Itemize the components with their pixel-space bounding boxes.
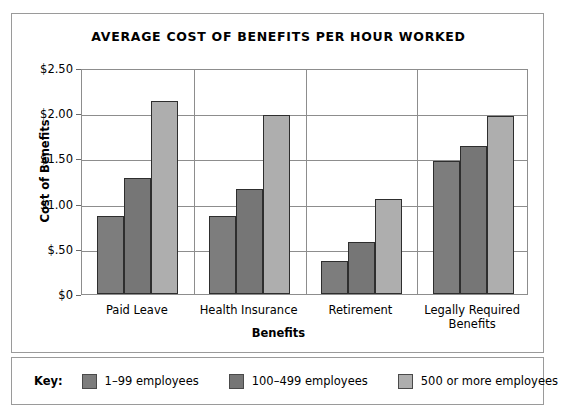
x-axis-category-label: Paid Leave [81,303,193,317]
bar [263,115,290,294]
bar [375,199,402,294]
legend-row: Key: 1–99 employees100–499 employees500 … [12,358,543,404]
y-axis-tick-mark [76,69,81,70]
category-separator-line [417,70,418,294]
bar [348,242,375,294]
legend-swatch [398,374,413,389]
bar [487,116,514,294]
gridline [82,115,527,116]
y-axis-tick-mark [76,295,81,296]
legend-label: 100–499 employees [252,374,368,388]
bar [433,161,460,294]
y-axis-tick-label: $.50 [11,243,73,257]
x-axis-category-label: Retirement [305,303,417,317]
x-axis-category-label: Health Insurance [193,303,305,317]
y-axis-tick-mark [76,250,81,251]
chart-title: Average Cost of Benefits per Hour Worked [12,29,545,44]
y-axis-tick-label: $2.50 [11,62,73,76]
y-axis-tick-label: $1.00 [11,198,73,212]
y-axis-tick-mark [76,114,81,115]
bar [321,261,348,294]
category-separator-line [306,70,307,294]
bar [236,189,263,294]
bar [151,101,178,294]
legend-label: 1–99 employees [105,374,199,388]
legend-swatch [229,374,244,389]
legend-title: Key: [34,374,63,388]
legend-swatch [82,374,97,389]
chart-panel: Average Cost of Benefits per Hour Worked… [11,13,544,353]
legend-label: 500 or more employees [421,374,558,388]
bar [124,178,151,294]
legend-item: 1–99 employees [82,374,199,389]
legend-items: 1–99 employees100–499 employees500 or mo… [82,374,562,389]
x-axis-title: Benefits [12,326,545,340]
y-axis-tick-mark [76,205,81,206]
bar [209,216,236,294]
legend-item: 500 or more employees [398,374,558,389]
bar [460,146,487,294]
legend-panel: Key: 1–99 employees100–499 employees500 … [11,357,544,405]
y-axis-tick-label: $0 [11,288,73,302]
y-axis-tick-label: $2.00 [11,107,73,121]
category-separator-line [194,70,195,294]
plot-area [81,69,528,295]
y-axis-tick-label: $1.50 [11,152,73,166]
y-axis-tick-mark [76,159,81,160]
legend-item: 100–499 employees [229,374,368,389]
bar [97,216,124,294]
